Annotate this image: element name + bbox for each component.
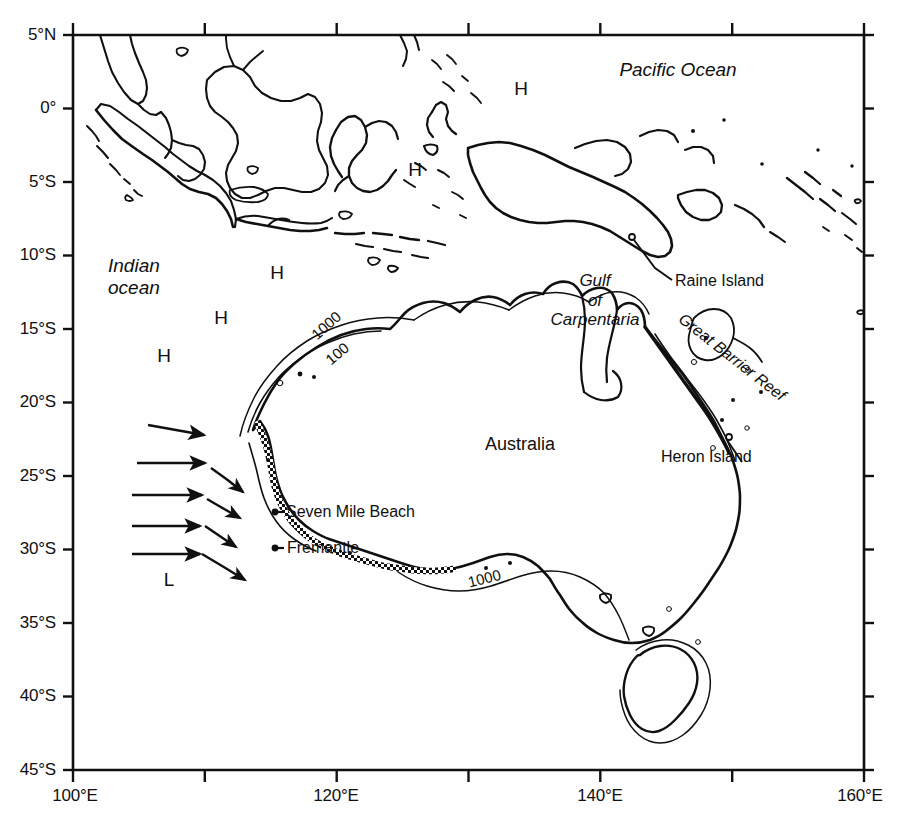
current-arrows-group <box>202 468 245 580</box>
ytick-label-5s: 5°S <box>0 172 56 192</box>
coastlines <box>87 35 864 743</box>
label-low-1: L <box>164 569 175 591</box>
current-arrow-4 <box>202 554 245 580</box>
wind-arrows-group <box>132 425 205 554</box>
label-high-1: H <box>514 78 528 100</box>
xtick-label-140e: 140°E <box>577 786 623 806</box>
xtick-label-100e: 100°E <box>52 786 98 806</box>
map-canvas <box>0 0 899 822</box>
current-arrow-3 <box>205 526 236 547</box>
label-high-4: H <box>214 307 228 329</box>
ytick-label-45s: 45°S <box>0 760 56 780</box>
xtick-label-160e: 160°E <box>837 786 883 806</box>
ytick-label-15s: 15°S <box>0 319 56 339</box>
label-pacific-ocean: Pacific Ocean <box>619 59 736 81</box>
label-raine-island: Raine Island <box>675 272 764 290</box>
ytick-label-40s: 40°S <box>0 686 56 706</box>
xtick-label-120e: 120°E <box>313 786 359 806</box>
label-high-2: H <box>408 159 422 181</box>
current-arrow-2 <box>207 499 240 518</box>
label-indian-ocean: Indian ocean <box>108 255 160 299</box>
label-fremantle: Fremantle <box>287 539 359 557</box>
label-heron-island: Heron Island <box>661 448 752 466</box>
label-high-3: H <box>270 262 284 284</box>
marker-heron-island <box>726 434 732 440</box>
ytick-label-20s: 20°S <box>0 392 56 412</box>
current-arrow-1 <box>211 468 243 492</box>
ytick-label-25s: 25°S <box>0 466 56 486</box>
ytick-label-30s: 30°S <box>0 539 56 559</box>
map-figure: 5°N 0° 5°S 10°S 15°S 20°S 25°S 30°S 35°S… <box>0 0 899 822</box>
label-seven-mile-beach: Seven Mile Beach <box>286 503 415 521</box>
label-gulf-of-carpentaria: Gulf of Carpentaria <box>551 271 640 330</box>
label-australia: Australia <box>485 434 555 455</box>
wind-arrow-1 <box>148 425 204 435</box>
marker-raine-island <box>629 234 635 240</box>
ytick-label-5n: 5°N <box>0 25 56 45</box>
ytick-label-10s: 10°S <box>0 245 56 265</box>
ytick-label-35s: 35°S <box>0 613 56 633</box>
ytick-label-0: 0° <box>0 98 56 118</box>
axis-ticks <box>63 23 874 782</box>
label-high-5: H <box>157 345 171 367</box>
